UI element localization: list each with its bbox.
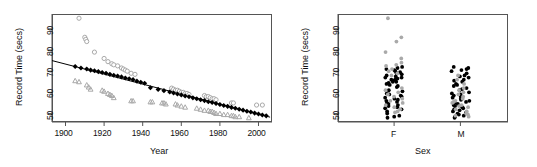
y-tick-label-right: 60	[331, 89, 341, 98]
left-panel-graphics	[0, 0, 280, 167]
y-axis-title-left: Record Time (secs)	[14, 28, 24, 106]
y-tick-label-left: 80	[45, 47, 55, 56]
x-axis-title-left: Year	[150, 146, 168, 156]
x-category-label-F: F	[391, 129, 396, 139]
y-axis-title-right: Record Time (secs)	[300, 28, 310, 106]
x-tick-label-left: 2000	[247, 128, 265, 138]
y-tick-label-right: 70	[331, 68, 341, 77]
y-tick-label-right: 80	[331, 47, 341, 56]
panel-year-scatter: Record Time (secs) Year 5060708090190019…	[0, 0, 280, 167]
y-tick-label-right: 90	[331, 26, 341, 35]
y-tick-label-left: 90	[45, 26, 55, 35]
y-tick-label-right: 50	[331, 110, 341, 119]
x-tick-label-left: 1920	[93, 128, 111, 138]
panel-sex-stripchart: Record Time (secs) Sex 5060708090FM	[280, 0, 537, 167]
y-tick-label-left: 60	[45, 89, 55, 98]
x-category-label-M: M	[457, 129, 464, 139]
right-panel-graphics	[280, 0, 537, 167]
x-tick-label-left: 1960	[170, 128, 188, 138]
y-tick-label-left: 50	[45, 110, 55, 119]
x-tick-label-left: 1900	[55, 128, 73, 138]
x-tick-label-left: 1980	[209, 128, 227, 138]
y-tick-label-left: 70	[45, 68, 55, 77]
x-axis-title-right: Sex	[415, 146, 431, 156]
figure-root: Record Time (secs) Year 5060708090190019…	[0, 0, 537, 167]
x-tick-label-left: 1940	[132, 128, 150, 138]
